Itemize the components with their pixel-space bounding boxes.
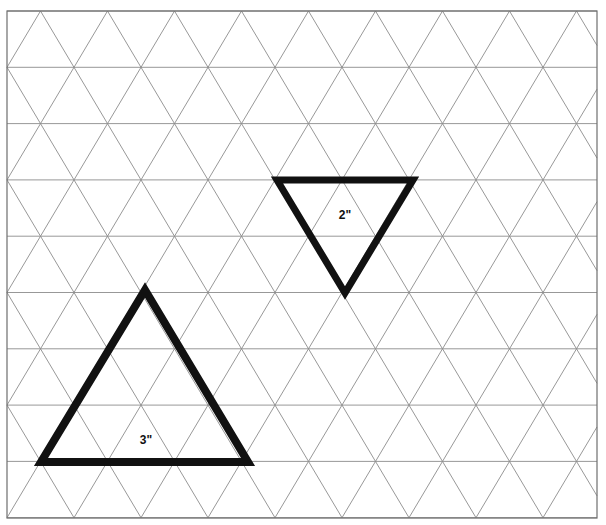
large-triangle-label: 3" [140,433,152,447]
grid-lines-group [7,11,597,518]
grid-canvas [0,0,606,525]
shapes-group [41,180,413,462]
small-triangle-label: 2" [339,208,351,222]
triangular-grid-worksheet: 2" 3" [0,0,606,525]
